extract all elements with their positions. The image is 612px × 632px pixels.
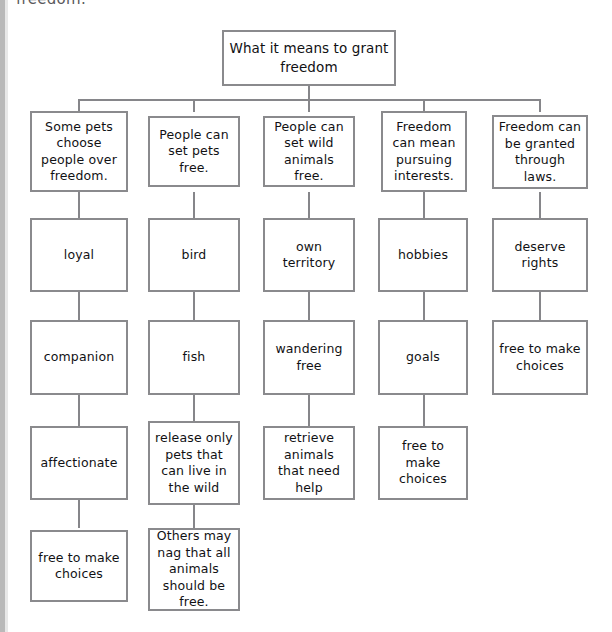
connector-c2r1-c2r2 xyxy=(193,192,195,219)
connector-c3r3-c3r4 xyxy=(308,395,310,430)
node-col2-row5[interactable]: Others may nag that all animals should b… xyxy=(148,528,240,611)
node-col1-row2-label: loyal xyxy=(60,246,98,265)
node-col4-row3[interactable]: goals xyxy=(378,320,468,395)
node-col4-row4-label: free to make choices xyxy=(380,437,466,489)
node-col1-row1[interactable]: Some pets choose people over freedom. xyxy=(30,111,128,192)
node-col2-row2-label: bird xyxy=(178,246,211,265)
node-col3-row3[interactable]: wandering free xyxy=(263,320,355,395)
node-col1-row1-label: Some pets choose people over freedom. xyxy=(32,118,126,186)
node-col2-row5-label: Others may nag that all animals should b… xyxy=(150,527,238,612)
node-col2-row3[interactable]: fish xyxy=(148,320,240,395)
connector-bar-to-col3 xyxy=(308,99,310,112)
node-col5-row3-label: free to make choices xyxy=(494,340,586,375)
node-col1-row5[interactable]: free to make choices xyxy=(30,530,128,602)
connector-c4r2-c4r3 xyxy=(423,292,425,320)
node-col1-row5-label: free to make choices xyxy=(32,549,126,584)
node-col3-row1[interactable]: People can set wild animals free. xyxy=(263,116,355,187)
node-root[interactable]: What it means to grant freedom xyxy=(222,30,396,86)
node-col1-row3[interactable]: companion xyxy=(30,320,128,395)
node-col1-row2[interactable]: loyal xyxy=(30,218,128,292)
connector-c4r3-c4r4 xyxy=(423,395,425,430)
node-col4-row3-label: goals xyxy=(402,348,444,367)
node-col3-row2-label: own territory xyxy=(265,238,353,273)
node-col5-row3[interactable]: free to make choices xyxy=(492,320,588,395)
node-col3-row4[interactable]: retrieve animals that need help xyxy=(263,426,355,500)
connector-c5r2-c5r3 xyxy=(539,292,541,320)
connector-c3r1-c3r2 xyxy=(308,192,310,219)
node-col1-row3-label: companion xyxy=(40,348,119,367)
node-col4-row1[interactable]: Freedom can mean pursuing interests. xyxy=(381,111,467,192)
node-col2-row2[interactable]: bird xyxy=(148,218,240,292)
node-col4-row4[interactable]: free to make choices xyxy=(378,426,468,500)
node-col4-row2[interactable]: hobbies xyxy=(378,218,468,292)
worksheet-page: freedom. What it means to grant freedom … xyxy=(0,0,612,632)
node-col2-row4-label: release only pets that can live in the w… xyxy=(150,429,238,497)
connector-c4r1-c4r2 xyxy=(423,192,425,219)
node-col5-row2[interactable]: deserve rights xyxy=(492,218,588,292)
node-col2-row1[interactable]: People can set pets free. xyxy=(148,116,240,187)
node-col2-row1-label: People can set pets free. xyxy=(150,126,238,178)
node-col1-row4-label: affectionate xyxy=(36,454,121,473)
connector-c1r2-c1r3 xyxy=(78,292,80,320)
node-col3-row3-label: wandering free xyxy=(265,340,353,375)
connector-bar-to-col5 xyxy=(539,99,541,112)
node-col4-row2-label: hobbies xyxy=(394,246,452,265)
node-col3-row2[interactable]: own territory xyxy=(263,218,355,292)
node-root-label: What it means to grant freedom xyxy=(224,38,394,78)
connector-c1r4-c1r5 xyxy=(78,500,80,528)
node-col3-row4-label: retrieve animals that need help xyxy=(265,429,353,497)
node-col5-row2-label: deserve rights xyxy=(494,238,586,273)
node-col4-row1-label: Freedom can mean pursuing interests. xyxy=(383,118,465,186)
node-col2-row3-label: fish xyxy=(179,348,210,367)
connector-bar-to-col2 xyxy=(193,99,195,112)
connector-c5r1-c5r2 xyxy=(539,192,541,219)
node-col5-row1[interactable]: Freedom can be granted through laws. xyxy=(492,115,588,189)
node-col5-row1-label: Freedom can be granted through laws. xyxy=(494,118,586,186)
connector-c1r1-c1r2 xyxy=(78,192,80,219)
connector-c3r2-c3r3 xyxy=(308,292,310,320)
connector-c1r3-c1r4 xyxy=(78,395,80,430)
page-edge-shadow-inner xyxy=(5,0,8,632)
node-col1-row4[interactable]: affectionate xyxy=(30,426,128,500)
clipped-previous-line-text: freedom. xyxy=(16,0,136,5)
node-col2-row4[interactable]: release only pets that can live in the w… xyxy=(148,421,240,505)
connector-c2r2-c2r3 xyxy=(193,292,195,320)
node-col3-row1-label: People can set wild animals free. xyxy=(265,118,353,186)
connector-root-stem xyxy=(308,86,310,100)
